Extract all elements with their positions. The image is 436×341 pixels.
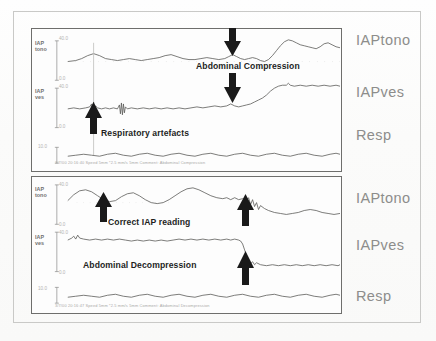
tick-tono-upper-bottom: 40.0 xyxy=(59,182,68,187)
recording-panel-decompression xyxy=(31,176,342,314)
axis-label-line1: IAP xyxy=(35,40,44,46)
axis-label-iaptono-bottom: IAP tono xyxy=(35,186,47,198)
side-label-resp-top: Resp xyxy=(356,127,391,143)
arrow-compression-ves xyxy=(223,73,242,103)
axis-ticks-decompression xyxy=(55,185,59,303)
arrow-correct-iap-reading xyxy=(94,192,113,222)
tick-ves-lower-bottom: 0.0 xyxy=(59,270,65,275)
arrow-decompression-ves xyxy=(236,251,255,285)
tick-resp-upper-bottom: 10.0 xyxy=(38,286,47,291)
axis-label-line2: ves xyxy=(35,240,44,246)
trace-group-decompression xyxy=(32,177,341,313)
axis-label-line2: tono xyxy=(35,46,47,52)
arrow-respiratory-artefacts xyxy=(84,102,103,134)
arrow-decompression-tono xyxy=(236,194,255,226)
annotation-correct-iap-reading: Correct IAP reading xyxy=(108,217,190,227)
tick-ves-upper-bottom: 40.0 xyxy=(59,230,68,235)
tick-resp-upper-top: 10.0 xyxy=(38,144,47,149)
figure-root: IAP tono IAP ves 40.0 0.0 40.0 0.0 10.0 … xyxy=(0,0,436,341)
annotation-abdominal-compression: Abdominal Compression xyxy=(196,61,300,71)
tick-tono-lower-top: 0.0 xyxy=(59,76,65,81)
tick-tono-upper-top: 40.0 xyxy=(59,36,68,41)
axis-label-line1: IAP xyxy=(35,88,44,94)
trace-iaptono-compression xyxy=(68,40,340,62)
axis-label-iapves-bottom: IAP ves xyxy=(35,234,44,246)
arrow-compression-tono xyxy=(223,28,242,56)
axis-label-iaptono-top: IAP tono xyxy=(35,40,47,52)
axis-label-line1: IAP xyxy=(35,234,44,240)
axis-label-line2: tono xyxy=(35,192,47,198)
annotation-respiratory-artefacts: Respiratory artefacts xyxy=(101,128,189,138)
tick-ves-lower-top: 0.0 xyxy=(59,124,65,129)
side-label-resp-bottom: Resp xyxy=(356,288,391,304)
side-label-iapves-bottom: IAPves xyxy=(356,237,404,253)
axis-ticks-compression xyxy=(55,41,59,163)
trace-group-compression xyxy=(32,29,341,171)
axis-label-line1: IAP xyxy=(35,186,44,192)
trace-iapves-compression xyxy=(68,83,340,115)
tick-tono-lower-bottom: 0.0 xyxy=(59,222,65,227)
caption-compression: 3/7/00 20:16:40 Speed 5mm *2.5 mm/s 5mm … xyxy=(55,160,205,165)
tick-ves-upper-top: 40.0 xyxy=(59,84,68,89)
axis-label-line2: ves xyxy=(35,94,44,100)
side-label-iaptono-bottom: IAPtono xyxy=(356,190,410,206)
trace-resp-decompression xyxy=(68,294,340,297)
side-label-iaptono-top: IAPtono xyxy=(356,32,410,48)
side-label-iapves-top: IAPves xyxy=(356,84,404,100)
caption-decompression: 3/7/00 20:16:47 Speed 5mm *2.5 mm/s 5mm … xyxy=(55,303,210,308)
axis-label-iapves-top: IAP ves xyxy=(35,88,44,100)
trace-resp-compression xyxy=(68,153,340,156)
recording-panel-compression xyxy=(31,28,342,172)
annotation-abdominal-decompression: Abdominal Decompression xyxy=(83,260,197,270)
